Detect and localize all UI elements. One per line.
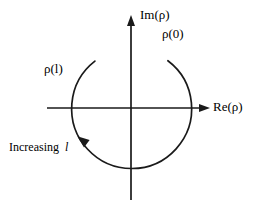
rho-zero-label: ρ(0)	[162, 27, 184, 40]
complex-plane-figure: Im(ρ) Re(ρ) ρ(0) ρ(l) Increasing l	[0, 0, 266, 213]
imaginary-axis-label: Im(ρ)	[140, 8, 170, 21]
real-axis-arrowhead-icon	[199, 104, 210, 112]
increasing-text: Increasing	[9, 140, 59, 154]
rho-l-label: ρ(l)	[44, 62, 63, 75]
increasing-parameter: l	[65, 140, 68, 154]
real-axis-label: Re(ρ)	[213, 100, 243, 113]
direction-arrowhead-icon	[77, 136, 89, 147]
increasing-annotation: Increasing l	[9, 141, 68, 153]
imaginary-axis-arrowhead-icon	[127, 15, 135, 26]
